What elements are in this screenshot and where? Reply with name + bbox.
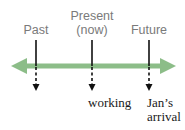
jans-arrival-label: Jan’s arrival (147, 96, 181, 124)
past-label: Past (23, 23, 48, 37)
jans-arrival-line1: Jan’s (147, 96, 181, 110)
working-label-text: working (88, 95, 131, 110)
past-label-text: Past (23, 23, 48, 37)
jans-arrival-line2: arrival (147, 110, 181, 124)
working-label: working (88, 96, 131, 110)
arrow-down-icon (146, 84, 153, 91)
present-label-line1: Present (70, 9, 113, 23)
present-label-line2: (now) (70, 23, 113, 37)
arrow-down-icon (33, 84, 40, 91)
arrow-down-icon (89, 84, 96, 91)
future-label: Future (131, 23, 167, 37)
future-label-text: Future (131, 23, 167, 37)
present-label: Present (now) (70, 9, 113, 37)
